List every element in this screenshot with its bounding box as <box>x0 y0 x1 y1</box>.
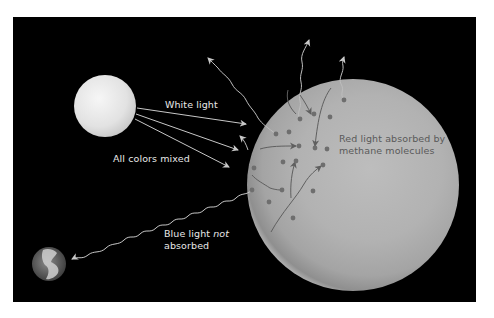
white-light-label: White light <box>165 99 218 111</box>
blue-light-label: Blue light not absorbed <box>164 228 229 252</box>
all-colors-mixed-label: All colors mixed <box>113 153 190 165</box>
diagram-canvas <box>0 0 494 318</box>
red-light-label-line1: Red light absorbed by <box>339 133 445 144</box>
red-light-label: Red light absorbed by methane molecules <box>339 133 445 157</box>
planet <box>247 79 459 291</box>
sun <box>74 75 136 137</box>
red-light-label-line2: methane molecules <box>339 145 434 156</box>
blue-light-label-not: not <box>213 228 229 239</box>
earth <box>32 247 66 281</box>
blue-light-label-line2: absorbed <box>164 240 209 251</box>
blue-light-label-line1: Blue light <box>164 228 213 239</box>
